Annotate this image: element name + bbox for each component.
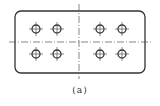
hole bbox=[29, 22, 43, 36]
hole bbox=[115, 22, 129, 36]
figure-caption: (a) bbox=[0, 85, 160, 95]
hole bbox=[50, 47, 64, 61]
hole bbox=[93, 47, 107, 61]
hole bbox=[115, 47, 129, 61]
hole bbox=[29, 47, 43, 61]
hole bbox=[50, 22, 64, 36]
hole bbox=[93, 22, 107, 36]
